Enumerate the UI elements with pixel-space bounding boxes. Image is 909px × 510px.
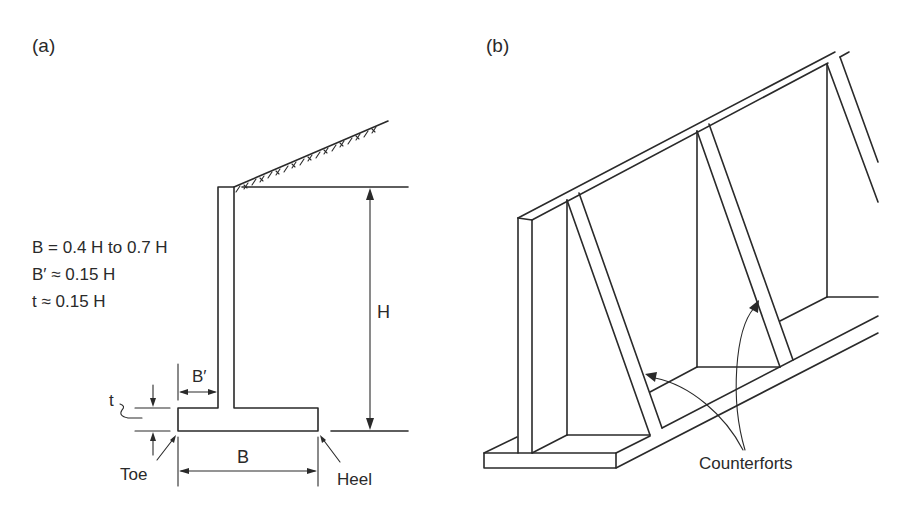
counterfort-2-front-edge (697, 131, 780, 367)
backfill-slope-line (234, 121, 388, 187)
height-arrow-bottom-icon (366, 418, 374, 430)
thickness-arrow-top-icon (150, 398, 156, 407)
toe-width-arrow-right-icon (208, 389, 217, 395)
stem-top-back-line (532, 63, 828, 220)
base-width-arrow-left-icon (179, 468, 189, 474)
counterfort-3-top-stub (840, 52, 849, 57)
wall-section-outline (178, 187, 318, 431)
heel-floor-edge-3 (780, 297, 827, 321)
heel-leader-line (322, 438, 340, 462)
stem-top-edge (518, 218, 532, 220)
counterfort-3-front-edge (827, 64, 878, 202)
counterforts-arrow-1-icon (645, 372, 657, 382)
height-label: H (377, 302, 390, 322)
panel-a-label: (a) (32, 35, 55, 56)
panel-b-counterfort-wall: (b) Counterf (484, 35, 878, 473)
toe-width-label: B′ (192, 367, 207, 386)
panel-b-label: (b) (486, 35, 509, 56)
heel-floor-edge-1 (532, 435, 567, 453)
counterfort-1-back-edge (579, 193, 662, 428)
counterforts-leader-2 (736, 308, 754, 450)
counterforts-leader-1 (655, 378, 743, 450)
heel-floor-edge-2 (650, 367, 697, 392)
thickness-arrow-bottom-icon (150, 432, 156, 441)
base-slab-outline (484, 453, 616, 468)
thickness-label: t (109, 391, 114, 410)
height-arrow-top-icon (366, 188, 374, 200)
toe-width-arrow-left-icon (179, 389, 188, 395)
toe-leader-line (157, 438, 174, 460)
panel-a-cantilever-wall: (a) B = 0.4 H to 0.7 H B′ ≈ 0.15 H t ≈ 0… (32, 35, 408, 489)
thickness-squiggle-leader (120, 404, 142, 418)
base-width-label: B (237, 447, 249, 467)
heel-label: Heel (337, 470, 372, 489)
base-slab-top-back-edge (662, 316, 878, 428)
counterforts-arrow-2-icon (749, 300, 759, 313)
soil-hatching (236, 127, 376, 192)
retaining-wall-figure: (a) B = 0.4 H to 0.7 H B′ ≈ 0.15 H t ≈ 0… (0, 0, 909, 510)
base-slab-bottom-edge (616, 333, 878, 468)
base-slab-front-top-edge (616, 436, 650, 453)
counterfort-2-back-edge (709, 124, 793, 360)
base-width-arrow-right-icon (307, 468, 317, 474)
counterfort-1-front-edge (567, 200, 650, 435)
base-slab-toe-top-edge (484, 437, 517, 453)
counterforts-label: Counterforts (699, 454, 793, 473)
toe-label: Toe (120, 465, 147, 484)
equation-base-width: B = 0.4 H to 0.7 H (32, 238, 168, 257)
stem-top-front-line (518, 52, 835, 218)
counterfort-3-back-edge (840, 57, 878, 162)
equation-toe-width: B′ ≈ 0.15 H (32, 265, 115, 284)
equation-thickness: t ≈ 0.15 H (32, 292, 106, 311)
